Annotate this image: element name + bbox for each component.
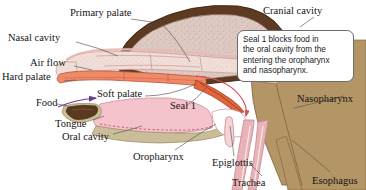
- label-nasopharynx: Nasopharynx: [297, 94, 353, 105]
- epiglottis-flap: [225, 117, 234, 148]
- label-tongue: Tongue: [55, 119, 86, 130]
- label-air-flow: Air flow: [30, 58, 66, 69]
- label-food: Food: [36, 98, 58, 109]
- seal-1-callout: Seal 1 blocks food in the oral cavity fr…: [237, 30, 354, 82]
- label-trachea: Trachea: [232, 178, 265, 189]
- label-epiglottis: Epiglottis: [212, 158, 253, 169]
- label-seal-1: Seal 1: [170, 101, 196, 112]
- label-primary-palate: Primary palate: [70, 8, 132, 19]
- label-oral-cavity: Oral cavity: [62, 132, 109, 143]
- oral-cavity-space: [92, 98, 226, 143]
- anatomy-figure: Primary palate Cranial cavity Nasal cavi…: [0, 0, 366, 190]
- label-oropharynx: Oropharynx: [133, 152, 184, 163]
- label-hard-palate: Hard palate: [2, 72, 51, 83]
- label-nasal-cavity: Nasal cavity: [8, 33, 60, 44]
- label-esophagus: Esophagus: [312, 176, 358, 187]
- label-cranial-cavity: Cranial cavity: [263, 6, 322, 17]
- label-soft-palate: Soft palate: [97, 89, 142, 100]
